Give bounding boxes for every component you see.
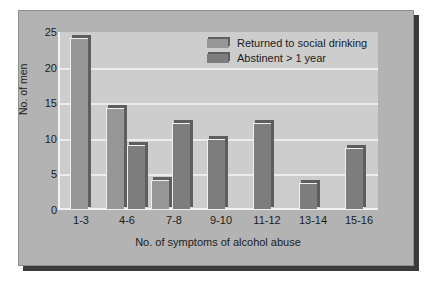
series-2-swatch [207, 54, 229, 63]
legend-label-series-1: Returned to social drinking [237, 37, 367, 49]
bar-fill [151, 180, 170, 210]
y-tick-label-0: 0 [17, 205, 57, 216]
bar-fill [299, 183, 318, 210]
bar-fill [172, 123, 191, 210]
bar-1-3-series-1 [70, 38, 89, 210]
x-tick-label-4-6: 4-6 [119, 214, 135, 226]
x-tick-label-1-3: 1-3 [73, 214, 89, 226]
y-tick-label-15: 15 [17, 98, 57, 109]
x-tick-label-15-16: 15-16 [345, 214, 373, 226]
x-tick-label-9-10: 9-10 [210, 214, 232, 226]
bar-4-6-series-2 [127, 145, 146, 210]
bar-group-7-8 [149, 32, 195, 210]
legend-label-series-2: Abstinent > 1 year [237, 52, 326, 64]
bar-fill [70, 38, 89, 210]
bar-7-8-series-1 [151, 180, 170, 210]
bar-7-8-series-2 [172, 123, 191, 210]
bar-fill [106, 108, 125, 210]
bar-group-4-6 [104, 32, 150, 210]
bar-group-1-3 [58, 32, 104, 210]
bar-fill [127, 145, 146, 210]
bar-4-6-series-1 [106, 108, 125, 210]
x-tick-label-11-12: 11-12 [253, 214, 280, 226]
bar-15-16-series-2 [345, 148, 364, 210]
bar-11-12-series-2 [253, 123, 272, 210]
bar-fill [345, 148, 364, 210]
figure-frame: No. of men 25 20 15 10 5 0 1-3 4-6 7-8 9… [18, 10, 414, 266]
bar-fill [253, 123, 272, 210]
y-tick-label-25: 25 [17, 27, 57, 38]
x-axis-title: No. of symptoms of alcohol abuse [58, 236, 378, 248]
bar-9-10-series-2 [207, 139, 226, 210]
series-1-swatch [207, 39, 229, 48]
legend-item-returned-to-social-drinking: Returned to social drinking [207, 37, 367, 49]
legend-item-abstinent-over-1-year: Abstinent > 1 year [207, 52, 367, 64]
y-tick-label-20: 20 [17, 62, 57, 73]
chart-legend: Returned to social drinking Abstinent > … [207, 37, 367, 67]
bar-13-14-series-2 [299, 183, 318, 210]
y-tick-label-10: 10 [17, 133, 57, 144]
x-tick-label-7-8: 7-8 [166, 214, 182, 226]
x-tick-label-13-14: 13-14 [299, 214, 327, 226]
bar-fill [207, 139, 226, 210]
y-tick-label-5: 5 [17, 169, 57, 180]
